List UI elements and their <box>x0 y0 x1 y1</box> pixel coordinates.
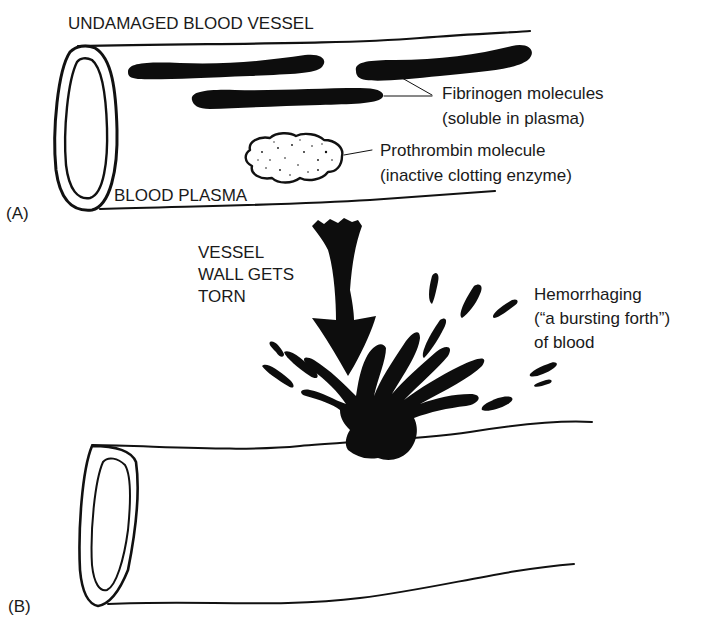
prothrombin-molecule <box>246 133 343 182</box>
vessel-a-top-wall <box>78 31 530 46</box>
panel-a-title: UNDAMAGED BLOOD VESSEL <box>68 14 314 33</box>
blood-droplet <box>429 273 439 304</box>
prothrombin-label-line1: Prothrombin molecule <box>380 141 545 160</box>
vessel-a-inner-ring <box>65 58 107 198</box>
hemorrhage-label-line3: of blood <box>534 333 595 352</box>
fibrinogen-molecule-3 <box>192 88 383 109</box>
blood-droplet <box>530 362 557 376</box>
blood-droplet <box>534 379 552 386</box>
blood-vessel-diagram: UNDAMAGED BLOOD VESSEL BLOOD PLASMA Fibr… <box>0 0 714 632</box>
prothrombin-leader-line <box>344 150 372 155</box>
blood-plasma-label: BLOOD PLASMA <box>114 186 248 205</box>
hemorrhage-label-line2: (“a bursting forth”) <box>534 309 670 328</box>
tear-arrow-icon <box>312 218 376 376</box>
tear-label-line1: VESSEL <box>198 243 264 262</box>
fibrinogen-leader-line-1 <box>402 78 432 95</box>
fibrinogen-label-line2: (soluble in plasma) <box>442 109 585 128</box>
panel-b-label: (B) <box>8 597 31 616</box>
tear-label-line3: TORN <box>198 287 246 306</box>
vessel-b-top-wall <box>92 421 592 448</box>
fibrinogen-molecule-1 <box>128 55 324 80</box>
fibrinogen-molecule-2 <box>356 45 532 81</box>
vessel-b-bottom-wall <box>108 564 574 604</box>
prothrombin-label-line2: (inactive clotting enzyme) <box>380 166 572 185</box>
blood-droplet <box>482 396 513 410</box>
blood-burst-icon <box>301 332 484 460</box>
panel-a-label: (A) <box>6 204 29 223</box>
blood-droplet <box>493 299 518 318</box>
panel-a-undamaged-vessel: UNDAMAGED BLOOD VESSEL BLOOD PLASMA Fibr… <box>6 14 604 223</box>
vessel-b-inner-ring <box>92 458 130 590</box>
blood-droplet <box>461 284 482 318</box>
panel-b-torn-vessel: VESSEL WALL GETS TORN Hemorrhaging (“a b… <box>8 218 670 616</box>
blood-droplet <box>262 365 294 388</box>
tear-label-line2: WALL GETS <box>198 265 294 284</box>
fibrinogen-label-line1: Fibrinogen molecules <box>442 84 604 103</box>
hemorrhage-label-line1: Hemorrhaging <box>534 285 642 304</box>
blood-droplet <box>269 342 284 357</box>
